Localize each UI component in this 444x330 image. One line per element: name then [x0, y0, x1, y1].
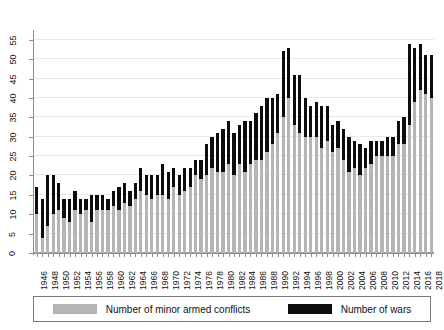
bar-segment-minor-1950	[57, 210, 60, 253]
bar-segment-minor-1962	[123, 203, 126, 253]
bar-segment-minor-1956	[90, 222, 93, 253]
bar-segment-minor-1976	[199, 179, 202, 253]
bar-segment-wars-1979	[216, 133, 219, 172]
bar-2003	[347, 137, 350, 253]
bar-segment-minor-1975	[194, 175, 197, 253]
y-tick-label-15: 15	[0, 191, 26, 200]
x-tick-label-1946: 1946	[40, 271, 49, 290]
bar-2012	[397, 121, 400, 253]
bar-1960	[112, 191, 115, 253]
bar-segment-minor-1971	[172, 187, 175, 253]
y-tick-label-25: 25	[0, 152, 26, 161]
bar-segment-wars-1964	[134, 183, 137, 199]
bar-segment-minor-1995	[304, 137, 307, 253]
gridline-35	[34, 116, 434, 117]
y-tick-label-40: 40	[0, 94, 26, 103]
bar-segment-minor-2014	[408, 125, 411, 253]
bar-segment-wars-1994	[298, 75, 301, 133]
bar-segment-wars-2003	[347, 137, 350, 172]
bar-2016	[419, 44, 422, 253]
bar-segment-wars-1978	[210, 137, 213, 168]
bar-segment-minor-2003	[347, 172, 350, 253]
bar-segment-minor-2017	[424, 94, 427, 253]
bar-segment-wars-2013	[402, 117, 405, 144]
bar-segment-wars-1971	[172, 168, 175, 187]
bar-segment-minor-1961	[117, 210, 120, 253]
x-tick-label-1984: 1984	[248, 271, 257, 290]
bar-segment-wars-2011	[391, 137, 394, 156]
bar-segment-minor-2000	[331, 152, 334, 253]
bar-2013	[402, 117, 405, 253]
bar-segment-wars-2015	[413, 48, 416, 102]
bar-segment-minor-1973	[183, 191, 186, 253]
bar-segment-wars-1959	[106, 199, 109, 211]
bar-segment-minor-1946	[35, 214, 38, 253]
bar-segment-wars-1963	[128, 191, 131, 207]
bar-1958	[101, 195, 104, 253]
bar-segment-minor-1981	[227, 164, 230, 253]
bar-segment-wars-1992	[287, 48, 290, 98]
bar-2000	[331, 125, 334, 253]
bar-segment-minor-2010	[386, 156, 389, 253]
x-tick-label-2014: 2014	[413, 271, 422, 290]
x-tick-label-1950: 1950	[62, 271, 71, 290]
x-tick-label-2004: 2004	[358, 271, 367, 290]
bar-segment-minor-1953	[73, 210, 76, 253]
bar-segment-wars-1961	[117, 187, 120, 210]
y-tick-label-50: 50	[0, 55, 26, 64]
bar-segment-wars-1952	[68, 199, 71, 222]
bar-1954	[79, 199, 82, 253]
bar-segment-minor-1952	[68, 222, 71, 253]
bar-segment-minor-1989	[271, 144, 274, 253]
bar-segment-minor-2004	[353, 168, 356, 253]
x-tick-label-1962: 1962	[128, 271, 137, 290]
bar-segment-wars-1969	[161, 164, 164, 195]
bar-segment-wars-1968	[156, 175, 159, 194]
bar-segment-minor-2005	[358, 175, 361, 253]
bar-segment-minor-1972	[178, 195, 181, 253]
bar-2002	[342, 129, 345, 253]
bar-1955	[84, 199, 87, 253]
bar-segment-wars-1981	[227, 121, 230, 164]
bar-segment-wars-2009	[380, 141, 383, 157]
bar-segment-minor-1948	[46, 226, 49, 253]
bar-1947	[41, 199, 44, 253]
bar-segment-wars-2010	[386, 137, 389, 156]
bar-1963	[128, 191, 131, 253]
x-tick-label-1968: 1968	[161, 271, 170, 290]
bar-segment-minor-1947	[41, 238, 44, 254]
bar-segment-wars-1954	[79, 199, 82, 215]
bar-2015	[413, 48, 416, 253]
bar-1951	[62, 199, 65, 253]
bar-1957	[95, 195, 98, 253]
bar-segment-wars-1986	[254, 113, 257, 160]
bar-segment-wars-1955	[84, 199, 87, 211]
bar-2018	[430, 55, 433, 253]
bar-segment-minor-1992	[287, 98, 290, 253]
x-tick-label-1974: 1974	[194, 271, 203, 290]
bar-segment-minor-2013	[402, 144, 405, 253]
x-tick-label-2016: 2016	[424, 271, 433, 290]
bar-segment-wars-1987	[260, 106, 263, 160]
x-tick-label-1952: 1952	[73, 271, 82, 290]
bar-segment-wars-2006	[364, 148, 367, 167]
x-tick-label-1988: 1988	[270, 271, 279, 290]
x-tick-label-1978: 1978	[216, 271, 225, 290]
bar-segment-wars-1991	[282, 51, 285, 117]
bar-1981	[227, 121, 230, 253]
legend-swatch-wars	[288, 304, 332, 314]
bar-1977	[205, 144, 208, 253]
x-tick-label-2018: 2018	[435, 271, 444, 290]
bar-segment-minor-1988	[265, 152, 268, 253]
bar-1949	[52, 175, 55, 253]
x-tick-label-1998: 1998	[325, 271, 334, 290]
x-tick-label-1954: 1954	[84, 271, 93, 290]
bar-1973	[183, 168, 186, 253]
bar-segment-wars-1998	[320, 106, 323, 149]
bar-segment-minor-1991	[282, 117, 285, 253]
bar-segment-wars-1988	[265, 98, 268, 152]
bar-segment-wars-2007	[369, 141, 372, 164]
x-tick-label-1982: 1982	[238, 271, 247, 290]
bar-1980	[221, 129, 224, 253]
